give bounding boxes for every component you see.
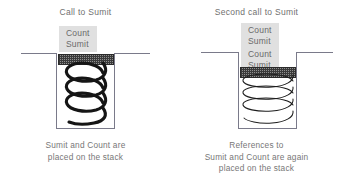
label-row-count: Count (248, 25, 272, 36)
panel-second-call: Second call to Sumit Count Sumit Count S… (171, 0, 342, 181)
label-row-sumit: Sumit (66, 39, 90, 50)
caption-line-2: Sumit and Count are again (171, 152, 342, 164)
stack-brim-right (297, 52, 333, 53)
spring-coil (56, 60, 116, 130)
label-row-sumit: Sumit (248, 36, 272, 47)
spring-coil (238, 73, 298, 131)
panel-caption: Sumit and Count are placed on the stack (0, 140, 171, 163)
caption-line-1: References to (171, 140, 342, 152)
caption-line-3: placed on the stack (171, 163, 342, 175)
stack-frame-label-box-upper: Count Sumit (241, 23, 279, 49)
panel-title: Second call to Sumit (171, 7, 342, 17)
caption-line-2: placed on the stack (0, 152, 171, 164)
stack-brim-left (21, 53, 56, 54)
label-row-count: Count (66, 28, 90, 39)
stack-frame-label-box: Count Sumit (59, 26, 97, 52)
panel-first-call: Call to Sumit Count Sumit Sumit and Coun… (0, 0, 171, 181)
stack-brim-right (114, 53, 150, 54)
panel-caption: References to Sumit and Count are again … (171, 140, 342, 175)
panel-title: Call to Sumit (0, 7, 171, 17)
caption-line-1: Sumit and Count are (0, 140, 171, 152)
stack-brim-left (201, 52, 238, 53)
